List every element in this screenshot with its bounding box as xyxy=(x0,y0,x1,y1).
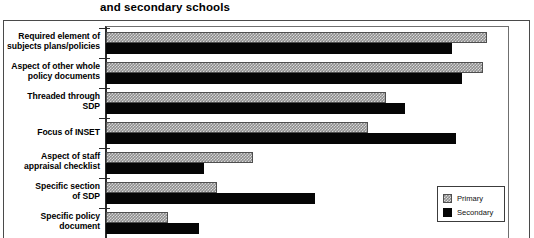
category-label-line: Aspect of staff xyxy=(4,151,100,161)
category-label: Specific section of SDP xyxy=(4,181,100,201)
bar-secondary xyxy=(106,73,462,84)
category-label: Focus of INSET xyxy=(4,127,100,137)
category-label: Aspect of other whole policy documents xyxy=(4,61,100,81)
axis-tick xyxy=(99,58,110,59)
legend-label-primary: Primary xyxy=(457,194,483,203)
category-label-line: of SDP xyxy=(4,191,100,201)
bar-secondary xyxy=(106,133,456,144)
category-label-line: subjects plans/policies xyxy=(4,41,100,51)
category-label: Specific policy document xyxy=(4,211,100,231)
category-label-line: document xyxy=(4,221,100,231)
axis-tick xyxy=(99,88,110,89)
axis-tick xyxy=(99,118,110,119)
category-label-line: appraisal checklist xyxy=(4,161,100,171)
bar-secondary xyxy=(106,103,405,114)
legend-swatch-secondary-icon xyxy=(443,208,452,217)
bar-group: Required element of subjects plans/polic… xyxy=(0,28,534,58)
bar-secondary xyxy=(106,43,452,54)
category-label: Aspect of staff appraisal checklist xyxy=(4,151,100,171)
legend-item-primary: Primary xyxy=(443,191,504,205)
bar-group: Aspect of staff appraisal checklist xyxy=(0,148,534,178)
bar-secondary xyxy=(106,163,204,174)
chart-title: and secondary schools xyxy=(0,0,330,17)
category-label-line: Required element of xyxy=(4,31,100,41)
category-label-line: Aspect of other whole xyxy=(4,61,100,71)
category-label-line: Focus of INSET xyxy=(4,127,100,137)
bar-primary xyxy=(106,212,168,223)
category-label-line: Specific section xyxy=(4,181,100,191)
axis-tick xyxy=(99,178,110,179)
legend-item-secondary: Secondary xyxy=(443,205,504,219)
axis-tick xyxy=(99,28,110,29)
bar-primary xyxy=(106,92,386,103)
bar-primary xyxy=(106,182,217,193)
category-label-line: policy documents xyxy=(4,71,100,81)
bar-group: Aspect of other whole policy documents xyxy=(0,58,534,88)
legend-swatch-primary-icon xyxy=(443,194,452,203)
bar-secondary xyxy=(106,193,315,204)
bar-group: Threaded through SDP xyxy=(0,88,534,118)
category-label: Threaded through SDP xyxy=(4,91,100,111)
category-label: Required element of subjects plans/polic… xyxy=(4,31,100,51)
legend-label-secondary: Secondary xyxy=(457,208,493,217)
category-label-line: SDP xyxy=(4,101,100,111)
chart-legend: Primary Secondary xyxy=(437,186,505,222)
axis-tick xyxy=(99,148,110,149)
axis-tick xyxy=(99,208,110,209)
bar-primary xyxy=(106,152,253,163)
bar-primary xyxy=(106,32,487,43)
bar-secondary xyxy=(106,223,199,234)
bar-primary xyxy=(106,62,483,73)
bar-chart-figure: and secondary schools Required element o… xyxy=(0,0,534,238)
category-label-line: Specific policy xyxy=(4,211,100,221)
bar-primary xyxy=(106,122,368,133)
category-label-line: Threaded through xyxy=(4,91,100,101)
bar-group: Focus of INSET xyxy=(0,118,534,148)
